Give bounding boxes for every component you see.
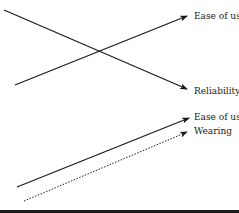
diagram-canvas: Ease of use Reliability Ease of use Wear… xyxy=(0,0,239,213)
label-ease-of-use-bottom: Ease of use xyxy=(194,112,239,122)
wearing-arrow xyxy=(24,132,187,201)
reliability-arrow xyxy=(4,10,187,89)
label-ease-of-use-top: Ease of use xyxy=(194,11,239,21)
diagram-lines xyxy=(0,0,239,213)
ease-of-use-arrow-bottom xyxy=(17,118,189,187)
bottom-border-bar xyxy=(0,210,239,213)
label-wearing: Wearing xyxy=(194,126,232,136)
label-reliability: Reliability xyxy=(194,86,239,96)
